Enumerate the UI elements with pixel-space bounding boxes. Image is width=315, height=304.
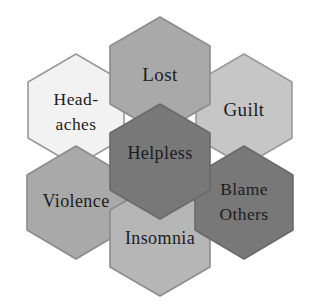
hex-label-headaches: Head-: [54, 89, 99, 109]
hex-label-headaches-line2: aches: [56, 114, 97, 134]
hex-label-lost: Lost: [142, 64, 178, 85]
hex-label-blame-others: Blame: [220, 179, 268, 199]
hex-label-violence: Violence: [42, 191, 109, 211]
hexagon-canvas: Head- aches Violence Guilt Lost Insomnia…: [0, 0, 315, 304]
hex-label-guilt: Guilt: [223, 99, 264, 120]
hex-label-insomnia: Insomnia: [125, 228, 195, 248]
hex-label-helpless: Helpless: [127, 143, 192, 163]
hex-label-blame-others-line2: Others: [219, 204, 268, 224]
hexagon-cluster-diagram: Head- aches Violence Guilt Lost Insomnia…: [0, 0, 315, 304]
